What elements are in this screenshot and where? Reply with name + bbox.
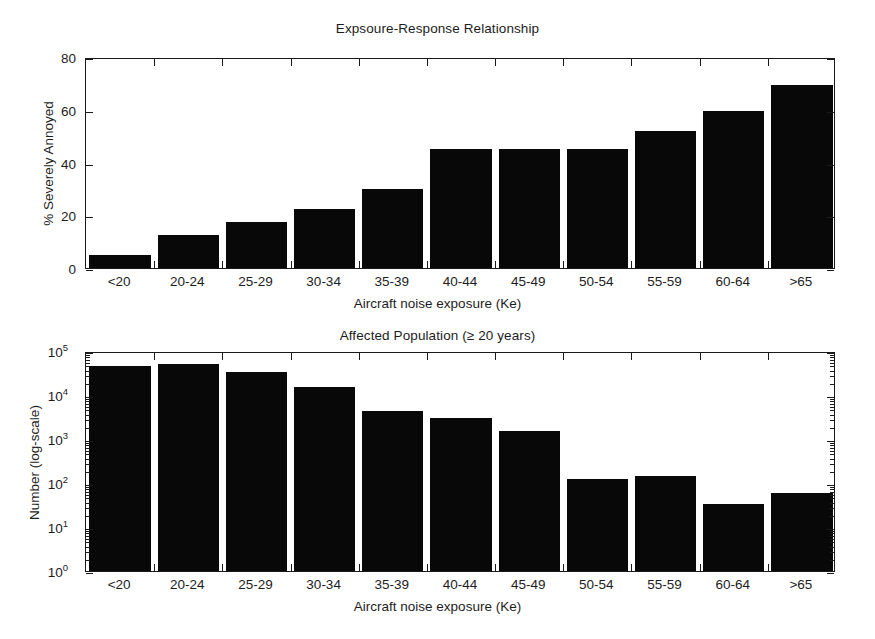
y-axis-minor-tick: [830, 415, 834, 416]
x-axis-tick: [768, 59, 769, 66]
y-axis-minor-tick: [830, 533, 834, 534]
x-axis-tick: [768, 353, 769, 360]
y-axis-minor-tick: [86, 547, 90, 548]
x-axis-tick: [768, 564, 769, 571]
x-axis-tick-label: 45-49: [511, 577, 546, 592]
chart-title-bottom: Affected Population (≥ 20 years): [0, 328, 875, 343]
y-axis-minor-tick: [830, 560, 834, 561]
y-axis-minor-tick: [86, 531, 90, 532]
x-axis-tick-label: 20-24: [170, 274, 205, 289]
x-axis-tick-label: 30-34: [306, 577, 341, 592]
chart-title-top: Expsoure-Response Relationship: [0, 21, 875, 36]
bar: [771, 85, 832, 268]
y-axis-tick-label: 40: [61, 156, 76, 171]
bar: [499, 149, 560, 268]
x-axis-tick-labels-top: <2020-2425-2930-3435-3940-4445-4950-5455…: [85, 274, 835, 294]
x-axis-tick: [563, 261, 564, 268]
x-axis-tick-label: 30-34: [306, 274, 341, 289]
y-axis-minor-tick: [86, 542, 90, 543]
plot-area-top: [85, 58, 835, 269]
y-axis-minor-tick: [86, 371, 90, 372]
y-axis-minor-tick: [830, 448, 834, 449]
x-axis-tick: [495, 261, 496, 268]
y-axis-tick: [827, 397, 834, 398]
x-axis-tick: [563, 353, 564, 360]
y-axis-minor-tick: [86, 516, 90, 517]
y-axis-tick: [86, 59, 93, 60]
y-axis-tick-label: 104: [48, 389, 68, 404]
y-axis-tick: [827, 529, 834, 530]
y-axis-minor-tick: [830, 547, 834, 548]
x-axis-tick-label: 40-44: [443, 577, 478, 592]
x-axis-tick: [222, 564, 223, 571]
y-axis-minor-tick: [86, 464, 90, 465]
x-axis-tick-label: 40-44: [443, 274, 478, 289]
y-axis-minor-tick: [86, 445, 90, 446]
y-axis-minor-tick: [86, 428, 90, 429]
y-axis-minor-tick: [830, 363, 834, 364]
y-axis-minor-tick: [830, 495, 834, 496]
bar: [771, 493, 832, 571]
y-axis-tick: [86, 353, 93, 354]
x-axis-tick: [291, 353, 292, 360]
y-axis-minor-tick: [86, 401, 90, 402]
y-axis-minor-tick: [830, 445, 834, 446]
x-axis-tick: [631, 564, 632, 571]
y-axis-minor-tick: [86, 459, 90, 460]
y-axis-title-top: % Severely Annoyed: [41, 64, 56, 264]
x-axis-tick: [359, 59, 360, 66]
y-axis-minor-tick: [86, 404, 90, 405]
x-axis-tick: [359, 353, 360, 360]
y-axis-tick: [827, 217, 834, 218]
bar-series-top: [86, 59, 834, 268]
y-axis-minor-tick: [86, 399, 90, 400]
y-axis-minor-tick: [830, 428, 834, 429]
x-axis-tick-label: 25-29: [238, 577, 273, 592]
y-axis-minor-tick: [86, 376, 90, 377]
x-axis-tick: [222, 353, 223, 360]
y-axis-minor-tick: [830, 508, 834, 509]
y-axis-minor-tick: [86, 552, 90, 553]
y-axis-tick-label: 101: [48, 521, 68, 536]
x-axis-tick: [495, 59, 496, 66]
x-axis-tick-labels-bottom: <2020-2425-2930-3435-3940-4445-4950-5455…: [85, 577, 835, 597]
y-axis-minor-tick: [86, 536, 90, 537]
y-axis-tick: [827, 165, 834, 166]
y-axis-minor-tick: [86, 451, 90, 452]
x-axis-tick-label: 45-49: [511, 274, 546, 289]
y-axis-minor-tick: [830, 542, 834, 543]
y-axis-minor-tick: [86, 420, 90, 421]
y-axis-minor-tick: [86, 560, 90, 561]
y-axis-minor-tick: [86, 472, 90, 473]
y-axis-minor-tick: [830, 407, 834, 408]
y-axis-tick: [827, 59, 834, 60]
bar: [158, 235, 219, 268]
x-axis-tick: [291, 261, 292, 268]
y-axis-tick-label: 103: [48, 433, 68, 448]
y-axis-minor-tick: [86, 539, 90, 540]
y-axis-minor-tick: [86, 498, 90, 499]
y-axis-title-bottom: Number (log-scale): [27, 363, 42, 563]
x-axis-tick-label: 35-39: [375, 577, 410, 592]
x-axis-tick-label: <20: [108, 274, 131, 289]
y-axis-minor-tick: [830, 366, 834, 367]
y-axis-minor-tick: [830, 401, 834, 402]
y-axis-minor-tick: [86, 357, 90, 358]
y-axis-minor-tick: [86, 533, 90, 534]
figure-canvas: Expsoure-Response Relationship 020406080…: [0, 0, 875, 639]
y-axis-minor-tick: [86, 363, 90, 364]
bar: [362, 189, 423, 268]
y-axis-tick: [86, 112, 93, 113]
y-axis-minor-tick: [830, 492, 834, 493]
x-axis-tick: [768, 261, 769, 268]
x-axis-tick-label: 25-29: [238, 274, 273, 289]
x-axis-tick: [700, 261, 701, 268]
y-axis-tick-label: 100: [48, 565, 68, 580]
x-axis-tick: [291, 59, 292, 66]
y-axis-tick-label: 60: [61, 103, 76, 118]
y-axis-minor-tick: [86, 366, 90, 367]
y-axis-tick-label: 0: [68, 262, 76, 277]
y-axis-minor-tick: [830, 420, 834, 421]
y-axis-tick: [86, 165, 93, 166]
y-axis-minor-tick: [830, 443, 834, 444]
